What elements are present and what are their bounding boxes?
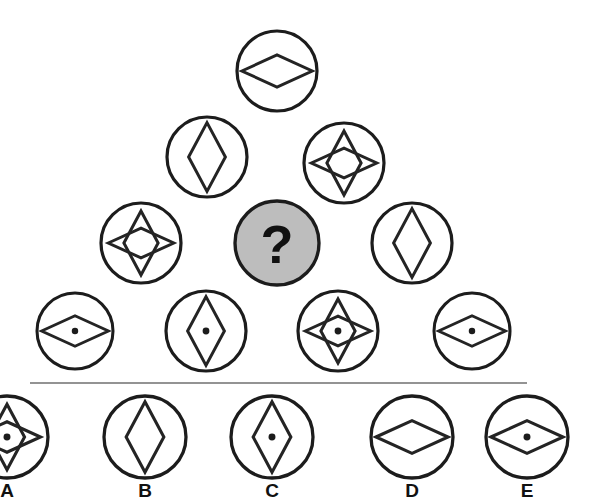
option-d-label: D (405, 480, 419, 500)
center-dot-icon (335, 328, 342, 335)
cell-outline-circle (101, 203, 181, 283)
puzzle-canvas: ?ABCDE (0, 0, 597, 500)
option-c-label: C (265, 480, 279, 500)
option-e[interactable]: E (486, 396, 568, 500)
matrix-cell-r3c2: ? (235, 201, 319, 285)
center-dot-icon (203, 328, 210, 335)
cell-outline-circle (372, 203, 452, 283)
matrix-row-3: ? (101, 201, 452, 285)
answer-options: ABCDE (0, 396, 568, 500)
puzzle-figure: ?ABCDE (0, 0, 597, 500)
matrix-cell-r2c1 (167, 117, 247, 197)
center-dot-icon (269, 434, 276, 441)
matrix-cell-r1c1 (237, 31, 317, 111)
cell-outline-circle (237, 31, 317, 111)
center-dot-icon (72, 328, 78, 334)
matrix-cell-r4c2 (166, 291, 246, 371)
center-dot-icon (4, 434, 11, 441)
matrix-row-1 (237, 31, 317, 111)
matrix-row-2 (167, 117, 384, 203)
matrix-row-4 (37, 291, 510, 371)
matrix-cell-r4c4 (434, 293, 510, 369)
center-dot-icon (469, 328, 475, 334)
cell-outline-circle (371, 396, 453, 478)
unknown-question-mark: ? (261, 214, 294, 274)
matrix-cell-r2c2 (304, 123, 384, 203)
option-a[interactable]: A (0, 396, 48, 500)
matrix-cell-r3c1 (101, 203, 181, 283)
center-dot-icon (524, 434, 531, 441)
matrix-grid: ? (37, 31, 510, 371)
option-e-label: E (521, 480, 534, 500)
option-a-label: A (0, 480, 14, 500)
option-c[interactable]: C (231, 396, 313, 500)
matrix-cell-r4c1 (37, 293, 113, 369)
option-b-label: B (138, 480, 152, 500)
cell-outline-circle (104, 396, 186, 478)
matrix-cell-r3c3 (372, 203, 452, 283)
cell-outline-circle (167, 117, 247, 197)
matrix-cell-r4c3 (298, 291, 378, 371)
option-d[interactable]: D (371, 396, 453, 500)
option-b[interactable]: B (104, 396, 186, 500)
cell-outline-circle (304, 123, 384, 203)
